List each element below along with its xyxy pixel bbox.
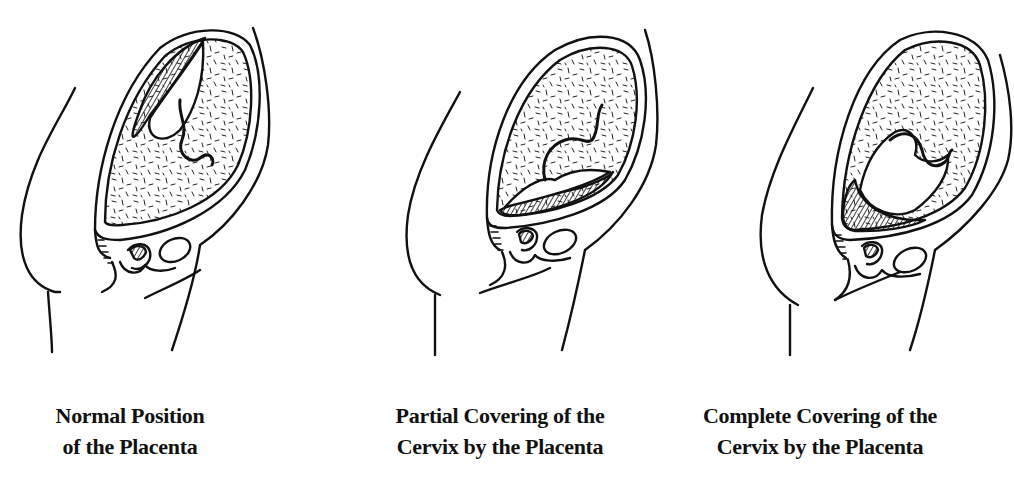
caption-line-1: Complete Covering of the — [670, 400, 970, 431]
panel-complete-covering: Complete Covering of the Cervix by the P… — [710, 0, 1014, 485]
panel-partial-covering: Partial Covering of the Cervix by the Pl… — [380, 0, 680, 485]
caption-line-2: Cervix by the Placenta — [670, 431, 970, 462]
caption-line-2: of the Placenta — [30, 431, 230, 462]
caption-line-1: Normal Position — [30, 400, 230, 431]
caption-complete-covering: Complete Covering of the Cervix by the P… — [670, 400, 970, 462]
complete-previa-illustration — [710, 0, 1014, 380]
partial-previa-illustration — [380, 0, 680, 380]
caption-normal-position: Normal Position of the Placenta — [30, 400, 230, 462]
caption-line-1: Partial Covering of the — [350, 400, 650, 431]
caption-partial-covering: Partial Covering of the Cervix by the Pl… — [350, 400, 650, 462]
caption-line-2: Cervix by the Placenta — [350, 431, 650, 462]
normal-placenta-illustration — [0, 0, 340, 380]
panel-normal-position: Normal Position of the Placenta — [0, 0, 340, 485]
